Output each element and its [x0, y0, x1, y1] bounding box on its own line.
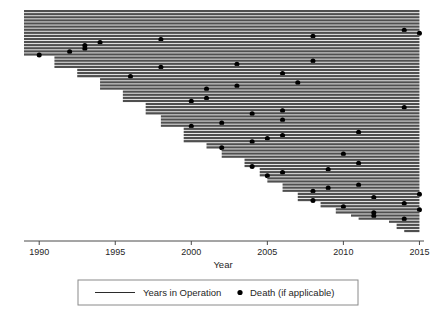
x-axis-tick-label: 2005 [257, 247, 277, 257]
bars-layer [24, 10, 422, 232]
operation-bar [351, 214, 419, 216]
operation-bar [283, 183, 420, 185]
operation-bar [161, 115, 420, 117]
operation-bar [100, 78, 419, 80]
operation-bar [260, 174, 420, 176]
death-marker-dot [310, 198, 315, 203]
operation-bar [54, 60, 419, 62]
operation-bar [207, 143, 420, 145]
operation-bar [123, 91, 420, 93]
operation-bar [321, 205, 420, 207]
operation-bar [207, 146, 420, 148]
death-marker-dot [250, 164, 255, 169]
x-axis-tick-label: 2000 [181, 247, 201, 257]
operation-bar [24, 53, 419, 55]
legend-label-years-in-operation: Years in Operation [143, 287, 221, 298]
operation-bar [24, 41, 419, 43]
operation-bar [24, 29, 419, 31]
operation-bar [146, 106, 420, 108]
death-marker-dot [37, 52, 42, 57]
operation-bar [298, 196, 420, 198]
operation-bar [336, 211, 420, 213]
operation-bar [100, 81, 419, 83]
operation-bar [24, 38, 419, 40]
operation-bar [161, 118, 420, 120]
operation-bar [77, 69, 419, 71]
operation-bar [222, 149, 420, 151]
operation-bar [298, 193, 420, 195]
x-axis-tick-label: 2015 [409, 247, 429, 257]
operation-bar [24, 19, 419, 21]
operation-bar [184, 131, 420, 133]
operation-bar [298, 199, 420, 201]
operation-bar [389, 221, 419, 223]
operation-bar [283, 190, 420, 192]
operation-bar [161, 122, 420, 124]
operation-bar [359, 218, 420, 220]
x-axis-tick-label: 1995 [105, 247, 125, 257]
operation-bar [184, 134, 420, 136]
operation-bar [123, 100, 420, 102]
operation-bar [77, 72, 419, 74]
operation-bar [222, 152, 420, 154]
operation-bar [24, 22, 419, 24]
operation-bar [397, 227, 420, 229]
operation-bar [146, 103, 420, 105]
operation-bar [184, 128, 420, 130]
x-axis-title: Year [213, 259, 232, 270]
operation-bar [24, 35, 419, 37]
legend-dot-icon [237, 290, 242, 295]
operation-bar [397, 224, 420, 226]
operation-bar [184, 137, 420, 139]
operation-bar [24, 16, 419, 18]
legend-label-death: Death (if applicable) [250, 287, 335, 298]
chart-legend: Years in Operation Death (if applicable) [78, 280, 358, 305]
operation-bar [123, 97, 420, 99]
operation-bar [54, 56, 419, 58]
operation-bar [245, 159, 420, 161]
x-axis-tick-label: 2010 [333, 247, 353, 257]
operation-bar [123, 94, 420, 96]
x-axis-ticks: 199019952000200520102015 [29, 241, 429, 257]
operation-bar [100, 84, 419, 86]
operation-bar [336, 208, 420, 210]
operation-bar [100, 87, 419, 89]
operation-bar [24, 10, 419, 12]
chart-container: 199019952000200520102015 Year Years in O… [0, 0, 445, 316]
operation-bar [260, 168, 420, 170]
operation-bar [245, 165, 420, 167]
operation-bar [24, 32, 419, 34]
operation-bar [54, 66, 419, 68]
x-axis-tick-label: 1990 [29, 247, 49, 257]
operation-bar [267, 180, 419, 182]
x-axis: 199019952000200520102015 [24, 241, 429, 257]
operation-bar [184, 140, 420, 142]
operation-bar [24, 25, 419, 27]
operation-bar [146, 112, 420, 114]
operation-bar [24, 50, 419, 52]
operation-bar [404, 230, 419, 232]
operation-bar [161, 125, 420, 127]
operation-bar [222, 156, 420, 158]
operation-bar [283, 187, 420, 189]
operation-bar [267, 177, 419, 179]
operation-timeline-chart: 199019952000200520102015 Year Years in O… [0, 0, 445, 316]
operation-bar [24, 13, 419, 15]
operation-bar [245, 162, 420, 164]
